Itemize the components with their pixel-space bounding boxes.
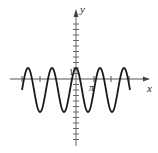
one-tick-label: 1 [69, 68, 74, 77]
x-axis-arrow-icon [143, 77, 150, 82]
y-axis-arrow-icon [74, 9, 79, 17]
y-axis [73, 9, 79, 146]
y-axis-label: y [80, 4, 85, 15]
function-graph [0, 0, 158, 153]
x-axis-label: x [147, 83, 152, 94]
pi-tick-label: π [89, 83, 94, 93]
